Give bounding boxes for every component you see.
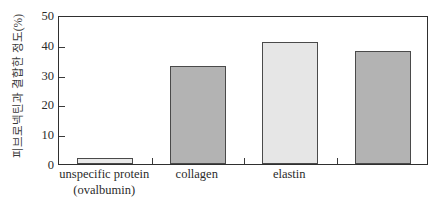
x-axis-tick-labels: unspecific protein(ovalbumin)collagenela… [58, 167, 428, 213]
x-tick-label-line1: collagen [176, 167, 218, 181]
y-tick-label: 50 [26, 10, 54, 23]
y-tick-mark [59, 77, 65, 78]
x-tick-mark [244, 158, 245, 164]
bar-chart-figure: 피브로넥틴과 결합한 정도(%) 01020304050 unspecific … [0, 0, 445, 215]
x-tick-label-line1: unspecific protein [59, 167, 149, 181]
y-tick-mark [59, 47, 65, 48]
y-tick-mark [59, 136, 65, 137]
y-tick-label: 20 [26, 99, 54, 112]
y-tick-mark [59, 106, 65, 107]
x-tick-mark [337, 158, 338, 164]
x-tick-label: unspecific protein(ovalbumin) [59, 167, 149, 198]
x-tick-label-line1: elastin [273, 167, 306, 181]
y-axis-tick-labels: 01020304050 [26, 16, 54, 165]
y-tick-label: 10 [26, 129, 54, 142]
y-tick-label: 30 [26, 69, 54, 82]
bar [170, 66, 226, 164]
x-tick-label-line2: (ovalbumin) [59, 183, 149, 199]
y-tick-label: 40 [26, 40, 54, 53]
bar [262, 42, 318, 164]
x-tick-label: collagen [176, 167, 218, 183]
plot-area [58, 16, 428, 165]
x-tick-mark [152, 158, 153, 164]
x-tick-label: elastin [273, 167, 306, 183]
bar [77, 158, 133, 164]
y-tick-label: 0 [26, 159, 54, 172]
y-axis-title: 피브로넥틴과 결합한 정도(%) [9, 4, 25, 169]
plot-inner [59, 17, 427, 164]
bar [355, 51, 411, 164]
